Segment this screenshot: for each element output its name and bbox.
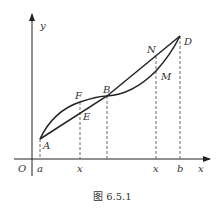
point-label-e: E xyxy=(82,111,91,122)
point-label-d: D xyxy=(183,36,192,47)
point-label-f: F xyxy=(74,90,83,101)
tick-label-x2: x xyxy=(153,163,159,174)
tick-label-b: b xyxy=(177,163,183,174)
integral-diagram: A F E B N M D y x O a x x b 图 6.5.1 xyxy=(0,0,222,212)
x-axis-label: x xyxy=(198,163,204,174)
tick-label-a: a xyxy=(37,163,43,174)
point-label-n: N xyxy=(146,44,157,55)
y-axis-label: y xyxy=(39,20,46,31)
point-label-b: B xyxy=(102,84,110,95)
figure-caption: 图 6.5.1 xyxy=(93,191,132,202)
point-label-a: A xyxy=(42,140,50,151)
point-label-m: M xyxy=(160,71,172,82)
tick-label-x1: x xyxy=(77,163,83,174)
origin-label: O xyxy=(18,163,26,174)
